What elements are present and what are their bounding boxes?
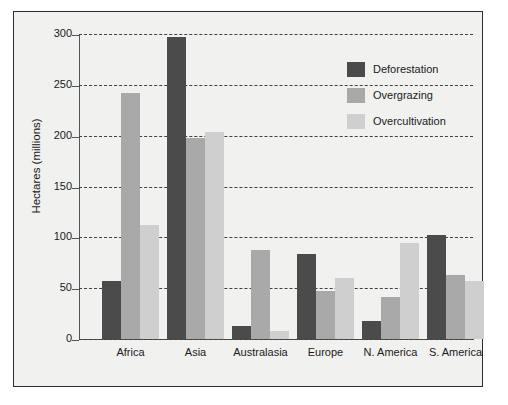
bar: [186, 138, 205, 339]
y-tick-label: 50: [32, 282, 72, 293]
y-tick-mark: [72, 86, 79, 87]
legend-label: Overcultivation: [373, 115, 446, 127]
legend-item: Deforestation: [347, 62, 472, 88]
y-tick-mark: [72, 35, 79, 36]
legend-item: Overgrazing: [347, 88, 472, 114]
chart-legend: DeforestationOvergrazingOvercultivation: [347, 62, 472, 140]
y-tick-label: 100: [32, 231, 72, 242]
y-tick-mark: [72, 188, 79, 189]
y-tick-label: 200: [32, 130, 72, 141]
y-tick-mark: [72, 137, 79, 138]
legend-label: Deforestation: [373, 63, 438, 75]
y-tick-label: 300: [32, 28, 72, 39]
gridline: [79, 339, 473, 340]
bar: [167, 37, 186, 339]
legend-color-swatch: [347, 62, 365, 77]
legend-color-swatch: [347, 88, 365, 103]
y-tick-mark: [72, 340, 79, 341]
bar: [362, 321, 381, 339]
chart-figure-frame: Hectares (millions) 050100150200250300 A…: [13, 11, 483, 387]
bar: [446, 275, 465, 339]
y-tick-label: 150: [32, 181, 72, 192]
bar: [140, 225, 159, 339]
bar: [335, 278, 354, 339]
bar: [465, 281, 484, 339]
bar: [381, 297, 400, 339]
bar: [316, 291, 335, 339]
bar: [205, 132, 224, 339]
bar: [251, 250, 270, 339]
x-tick-label: S. America: [405, 346, 506, 358]
bar: [102, 281, 121, 339]
y-tick-mark: [72, 238, 79, 239]
y-tick-mark: [72, 289, 79, 290]
y-axis-tick-labels: 050100150200250300: [22, 34, 72, 339]
y-tick-label: 0: [32, 333, 72, 344]
bar: [121, 93, 140, 339]
bar: [427, 235, 446, 339]
bar: [400, 243, 419, 339]
legend-label: Overgrazing: [373, 89, 433, 101]
bar: [297, 254, 316, 339]
bar: [232, 326, 251, 339]
legend-item: Overcultivation: [347, 114, 472, 140]
legend-color-swatch: [347, 114, 365, 129]
y-tick-label: 250: [32, 79, 72, 90]
bar: [270, 331, 289, 339]
